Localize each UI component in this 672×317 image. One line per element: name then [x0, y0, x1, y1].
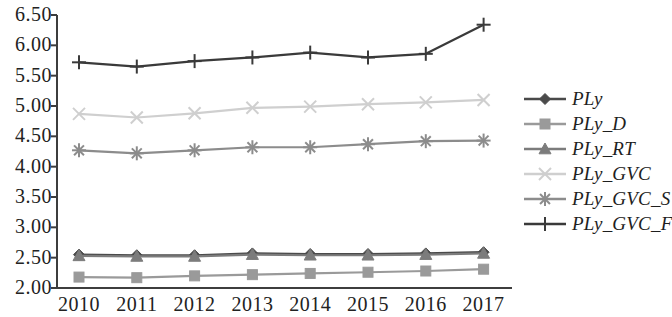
- square-marker: [479, 264, 489, 274]
- diamond-marker: [540, 93, 551, 104]
- legend-marker-group: [540, 119, 550, 129]
- y-axis-tick-label: 3.00: [0, 215, 52, 238]
- legend-item-label: PLy_D: [568, 113, 626, 135]
- legend-swatch-graphic: [522, 214, 568, 234]
- square-marker: [190, 271, 200, 281]
- legend-swatch-graphic: [522, 114, 568, 134]
- triangle-marker: [522, 139, 568, 159]
- legend-marker-group: [538, 217, 552, 231]
- legend-item-label: PLy: [568, 88, 603, 110]
- legend-marker-group: [540, 93, 551, 104]
- square-marker: [540, 119, 550, 129]
- series-ply-d: [74, 264, 489, 282]
- square-marker: [305, 268, 315, 278]
- legend-swatch-graphic: [522, 164, 568, 184]
- legend-item-label: PLy_GVC: [568, 163, 651, 185]
- series-line: [79, 25, 484, 67]
- diamond-marker: [522, 89, 568, 109]
- legend-item-ply-d[interactable]: PLy_D: [522, 111, 666, 136]
- x-axis-tick-label: 2017: [449, 293, 519, 316]
- y-axis-tick-label: 6.50: [0, 3, 52, 26]
- y-axis-tick-label: 4.00: [0, 155, 52, 178]
- x-marker: [522, 164, 568, 184]
- asterisk-marker: [522, 189, 568, 209]
- chart-legend: PLyPLy_DPLy_RTPLy_GVCPLy_GVC_SPLy_GVC_F: [522, 86, 666, 238]
- square-marker: [522, 114, 568, 134]
- legend-swatch-graphic: [522, 89, 568, 109]
- y-axis-tick-label: 5.00: [0, 94, 52, 117]
- plus-marker: [522, 214, 568, 234]
- square-marker: [74, 272, 84, 282]
- legend-item-label: PLy_GVC_S: [568, 188, 670, 210]
- square-marker: [421, 266, 431, 276]
- legend-item-label: PLy_RT: [568, 138, 635, 160]
- square-marker: [247, 270, 257, 280]
- legend-item-ply-rt[interactable]: PLy_RT: [522, 136, 666, 161]
- chart-series-layer: [72, 18, 491, 283]
- legend-item-ply[interactable]: PLy: [522, 86, 666, 111]
- square-marker: [132, 273, 142, 283]
- series-ply-gvc: [73, 94, 490, 124]
- legend-item-ply-gvc-s[interactable]: PLy_GVC_S: [522, 186, 666, 211]
- legend-item-ply-gvc-f[interactable]: PLy_GVC_F: [522, 211, 666, 236]
- y-axis-tick-label: 3.50: [0, 185, 52, 208]
- square-marker: [363, 267, 373, 277]
- legend-swatch-graphic: [522, 139, 568, 159]
- y-axis-tick-label: 2.50: [0, 246, 52, 269]
- series-ply-gvc-s: [72, 134, 491, 161]
- legend-item-ply-gvc[interactable]: PLy_GVC: [522, 161, 666, 186]
- y-axis-tick-label: 5.50: [0, 64, 52, 87]
- legend-marker-group: [538, 192, 552, 206]
- series-ply-gvc-f: [72, 18, 491, 74]
- y-axis-tick-label: 6.00: [0, 33, 52, 56]
- legend-item-label: PLy_GVC_F: [568, 213, 672, 235]
- legend-swatch-graphic: [522, 189, 568, 209]
- y-axis-tick-label: 4.50: [0, 124, 52, 147]
